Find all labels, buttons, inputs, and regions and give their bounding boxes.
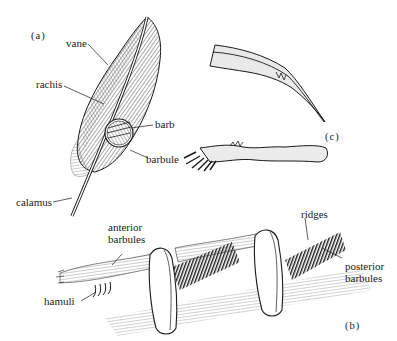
- feather-structure-diagram: (a) (c) (b) vane rachis barb barbule cal…: [0, 0, 397, 341]
- label-anterior-barbules-line1: anterior: [108, 222, 142, 233]
- label-barb: barb: [155, 119, 175, 130]
- label-vane: vane: [66, 38, 87, 49]
- label-anterior-barbules-line2: barbules: [108, 234, 145, 245]
- label-calamus: calamus: [16, 197, 52, 208]
- label-posterior-barbules-line2: barbules: [345, 273, 382, 284]
- panel-label-c: (c): [325, 131, 340, 142]
- barb-interlocking-illustration: [56, 230, 372, 336]
- panel-label-a: (a): [31, 30, 46, 41]
- label-ridges: ridges: [301, 209, 328, 220]
- barbule-detail-illustration: [184, 45, 328, 171]
- diagram-artwork: [0, 0, 397, 341]
- panel-label-b: (b): [345, 320, 360, 331]
- label-rachis: rachis: [36, 79, 62, 90]
- label-posterior-barbules-line1: posterior: [345, 261, 384, 272]
- label-hamuli: hamuli: [44, 296, 75, 307]
- label-barbule: barbule: [146, 154, 179, 165]
